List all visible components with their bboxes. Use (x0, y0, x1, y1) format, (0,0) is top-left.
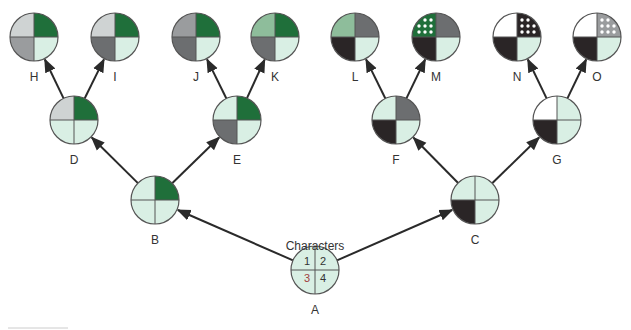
character-number-1: 1 (304, 255, 310, 267)
node-B: B (131, 176, 179, 247)
node-G: G (533, 96, 581, 167)
dot-pattern (520, 24, 523, 27)
node-label: H (30, 70, 39, 84)
dot-pattern (532, 24, 535, 27)
node-label: N (513, 70, 522, 84)
edge-G-N (528, 60, 547, 99)
dot-pattern (423, 24, 426, 27)
dot-pattern (606, 24, 609, 27)
dot-pattern (520, 18, 523, 21)
dot-pattern (429, 30, 432, 33)
node-label: C (471, 233, 480, 247)
dot-pattern (606, 30, 609, 33)
character-number-3: 3 (304, 272, 310, 284)
characters-title: Characters (286, 239, 345, 253)
dot-pattern (600, 24, 603, 27)
dot-pattern (423, 18, 426, 21)
edge-A-B (178, 210, 293, 260)
dot-pattern (612, 24, 615, 27)
edge-E-J (207, 59, 226, 98)
character-number-2: 2 (320, 255, 326, 267)
node-label: I (113, 70, 116, 84)
dot-pattern (600, 30, 603, 33)
dot-pattern (606, 18, 609, 21)
dot-pattern (417, 24, 420, 27)
dot-pattern (429, 24, 432, 27)
node-L: L (331, 13, 379, 84)
node-label: M (431, 70, 441, 84)
dot-pattern (526, 24, 529, 27)
edge-B-E (172, 137, 219, 183)
node-label: A (311, 303, 319, 317)
tree-edges (45, 59, 586, 260)
dot-pattern (520, 30, 523, 33)
edge-E-K (247, 60, 265, 98)
edge-B-D (92, 138, 138, 184)
node-A: A1234 (291, 246, 339, 317)
dot-pattern (417, 30, 420, 33)
dot-pattern (526, 30, 529, 33)
dot-pattern (532, 30, 535, 33)
edge-A-C (337, 210, 452, 260)
edge-C-F (414, 138, 459, 183)
node-label: B (151, 233, 159, 247)
character-number-4: 4 (320, 272, 326, 284)
node-label: K (271, 70, 279, 84)
tree-nodes: A1234BCDEFGHIJKLMNO (10, 13, 621, 317)
node-J: J (172, 13, 220, 84)
edge-D-I (85, 59, 104, 98)
dot-pattern (429, 18, 432, 21)
node-I: I (91, 13, 139, 84)
edge-F-M (406, 60, 425, 99)
edge-G-O (567, 60, 586, 99)
dot-pattern (423, 30, 426, 33)
node-C: C (451, 176, 499, 247)
node-label: L (352, 70, 359, 84)
dot-pattern (612, 30, 615, 33)
node-label: F (392, 153, 399, 167)
edge-C-G (492, 137, 539, 183)
node-label: G (552, 153, 561, 167)
node-F: F (372, 96, 420, 167)
phylogenetic-tree-diagram: A1234BCDEFGHIJKLMNO Characters (0, 0, 631, 330)
node-label: J (193, 70, 199, 84)
node-D: D (50, 96, 98, 167)
dot-pattern (600, 18, 603, 21)
node-label: D (70, 153, 79, 167)
node-E: E (213, 96, 261, 167)
dot-pattern (526, 18, 529, 21)
node-label: O (592, 70, 601, 84)
node-label: E (233, 153, 241, 167)
edge-F-L (366, 59, 385, 98)
edge-D-H (45, 60, 64, 99)
